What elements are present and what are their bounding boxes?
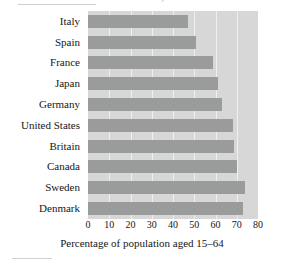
bar (88, 181, 245, 194)
bar (88, 202, 243, 215)
bar-row (88, 198, 258, 219)
y-axis-tick-label: Japan (0, 73, 84, 94)
bar-row (88, 136, 258, 157)
x-axis-ticks: 01020304050607080 (88, 219, 258, 235)
bar-row (88, 32, 258, 53)
bar-row (88, 73, 258, 94)
x-axis-tick-label: 20 (126, 219, 136, 230)
y-axis-tick-label: Spain (0, 32, 84, 53)
bar-row (88, 177, 258, 198)
bar (88, 36, 196, 49)
bar (88, 98, 222, 111)
bar-series (88, 11, 258, 219)
x-axis-tick-label: 70 (232, 219, 242, 230)
bar (88, 15, 188, 28)
footer-rule (12, 258, 52, 259)
y-axis-tick-label: Italy (0, 11, 84, 32)
bar-row (88, 115, 258, 136)
y-axis-tick-label: Canada (0, 157, 84, 178)
y-axis-tick-label: Sweden (0, 177, 84, 198)
y-axis-tick-label: France (0, 53, 84, 74)
bar (88, 56, 213, 69)
bar-row (88, 157, 258, 178)
bar (88, 119, 233, 132)
y-axis-tick-label: Germany (0, 94, 84, 115)
x-axis-label: Percentage of population aged 15–64 (0, 237, 284, 249)
bar-row (88, 53, 258, 74)
bar-row (88, 94, 258, 115)
x-axis-tick-label: 50 (189, 219, 199, 230)
y-axis-tick-label: United States (0, 115, 84, 136)
x-axis-tick-label: 10 (104, 219, 114, 230)
bar (88, 140, 234, 153)
x-axis-tick-label: 80 (253, 219, 263, 230)
x-axis-tick-label: 60 (211, 219, 221, 230)
bar (88, 160, 237, 173)
chart-title: Workers Wealth, 2004 (0, 0, 284, 2)
header-rule (18, 4, 96, 5)
y-axis-category-labels: ItalySpainFranceJapanGermanyUnited State… (0, 11, 84, 219)
y-axis-tick-label: Denmark (0, 198, 84, 219)
x-axis-tick-label: 30 (147, 219, 157, 230)
x-axis-tick-label: 40 (168, 219, 178, 230)
y-axis-tick-label: Britain (0, 136, 84, 157)
bar-chart: Workers Wealth, 2004 ItalySpainFranceJap… (0, 0, 284, 264)
x-axis-tick-label: 0 (86, 219, 91, 230)
bar (88, 77, 218, 90)
plot-area (88, 11, 258, 219)
bar-row (88, 11, 258, 32)
